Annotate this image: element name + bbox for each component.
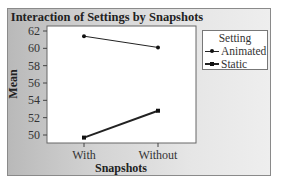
y-tick-label: 56 [28, 76, 40, 90]
line-chart: 50525456586062WithWithoutSnapshotsMean [0, 0, 285, 190]
x-axis-label: Snapshots [95, 161, 147, 175]
data-point-marker [156, 109, 160, 113]
line-circle-marker-icon [205, 46, 219, 56]
y-tick-label: 58 [28, 59, 40, 73]
plot-area [47, 26, 196, 143]
legend-label-animated: Animated [221, 45, 266, 57]
data-point-marker [82, 34, 86, 38]
y-tick-label: 60 [28, 41, 40, 55]
y-axis-label: Mean [6, 69, 20, 99]
legend-item-animated: Animated [203, 44, 267, 57]
legend: Setting Animated Static [202, 30, 268, 70]
data-point-marker [82, 136, 86, 140]
legend-label-static: Static [221, 58, 247, 70]
x-tick-label: With [72, 148, 96, 162]
legend-item-static: Static [203, 57, 267, 70]
line-square-marker-icon [205, 59, 219, 69]
y-tick-label: 54 [28, 93, 40, 107]
y-tick-label: 52 [28, 111, 40, 125]
y-tick-label: 50 [28, 128, 40, 142]
legend-title: Setting [203, 32, 267, 44]
x-tick-label: Without [139, 148, 179, 162]
y-tick-label: 62 [28, 24, 40, 38]
data-point-marker [156, 45, 160, 49]
